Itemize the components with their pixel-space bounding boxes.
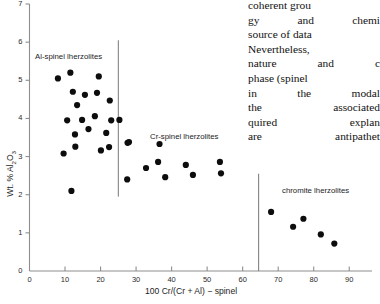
body-text-line: theassociated (248, 100, 380, 115)
y-axis-tick-label: 3 (9, 152, 23, 161)
data-point (331, 240, 337, 246)
body-text-word: nature (248, 56, 276, 71)
data-point (98, 147, 104, 153)
data-point (92, 113, 98, 119)
body-text-word: two (248, 144, 265, 148)
body-text-word: chemi (352, 13, 380, 28)
data-point (268, 209, 274, 215)
body-text-word: gy (248, 13, 259, 28)
body-text-line: coherent grou (248, 0, 380, 13)
x-axis-tick-label: 50 (199, 275, 215, 284)
body-text-line: Nevertheless, (248, 42, 380, 57)
data-point (85, 126, 91, 132)
data-point (300, 216, 306, 222)
data-point (68, 188, 74, 194)
data-point (183, 162, 189, 168)
body-text-word: and (317, 56, 333, 71)
data-point (218, 170, 224, 176)
data-point (70, 89, 76, 95)
body-text-line: natureandc (248, 56, 380, 71)
y-axis-tick-label: 5 (9, 75, 23, 84)
y-axis-label: Wt. % Al2O3 (5, 135, 17, 213)
data-point (67, 70, 73, 76)
data-point (61, 150, 67, 156)
group-label-chromite: chromite lherzolites (282, 186, 349, 195)
data-point (190, 172, 196, 178)
y-axis-tick-label: 7 (9, 0, 23, 8)
data-point (162, 174, 168, 180)
y-axis-tick-label: 1 (9, 228, 23, 237)
data-point (106, 144, 112, 150)
x-axis-tick-label: 10 (57, 275, 73, 284)
x-axis-tick-label: 0 (22, 275, 38, 284)
body-text-line: inthemodal (248, 86, 380, 101)
body-text-line: phase (spinel (248, 71, 380, 86)
x-axis-tick-label: 70 (270, 275, 286, 284)
data-point (82, 92, 88, 98)
data-point (124, 140, 130, 146)
body-text-word: the (297, 86, 311, 101)
data-point (156, 141, 162, 147)
data-point (74, 102, 80, 108)
data-point (107, 97, 113, 103)
x-axis-label: 100 Cr/(Cr + Al) − spinel (96, 286, 286, 296)
data-point (64, 117, 70, 123)
body-text-column: coherent grougyandchemisource of dataNev… (248, 0, 380, 148)
data-point (290, 224, 296, 230)
body-text-word: and (298, 13, 314, 28)
body-text-word: phases (306, 144, 336, 148)
x-axis-tick-label: 30 (128, 275, 144, 284)
group-label-al-spinel: Al-spinel lherzolites (35, 52, 102, 61)
data-point (318, 231, 324, 237)
y-axis-label-sub-2: 2 (10, 161, 17, 164)
data-point (72, 144, 78, 150)
body-text-line: quiredexplan (248, 115, 380, 130)
data-point (124, 176, 130, 182)
body-text-word: modal (352, 86, 380, 101)
data-point (72, 131, 78, 137)
data-point (96, 73, 102, 79)
body-text-word: explan (350, 115, 380, 130)
body-text-line: source of data (248, 27, 380, 42)
x-axis-tick-label: 20 (93, 275, 109, 284)
group-label-cr-spinel: Cr-spinel lherzolites (150, 132, 218, 141)
body-text-line: areantipathet (248, 129, 380, 144)
y-axis-tick-label: 6 (9, 37, 23, 46)
data-point (55, 75, 61, 81)
data-point (79, 117, 85, 123)
data-point (116, 117, 122, 123)
data-point (108, 117, 114, 123)
body-text-line: gyandchemi (248, 13, 380, 28)
body-text-line: twophasesi (248, 144, 380, 148)
x-axis-tick-label: 40 (164, 275, 180, 284)
data-point (143, 165, 149, 171)
x-axis-tick-label: 80 (306, 275, 322, 284)
body-text-word: c (375, 56, 380, 71)
body-text-word: the (248, 100, 262, 115)
y-axis-tick-label: 4 (9, 113, 23, 122)
data-point (155, 159, 161, 165)
data-point (94, 90, 100, 96)
body-text-word: associated (333, 100, 380, 115)
data-point (217, 159, 223, 165)
x-axis-tick-label: 90 (341, 275, 357, 284)
body-text-word: quired (248, 115, 277, 130)
y-axis-tick-label: 2 (9, 190, 23, 199)
y-axis-tick-label: 0 (9, 266, 23, 275)
body-text-word: are (248, 129, 262, 144)
body-text-word: in (248, 86, 257, 101)
x-axis-tick-label: 60 (235, 275, 251, 284)
body-text-word: antipathet (335, 129, 380, 144)
data-point (103, 130, 109, 136)
